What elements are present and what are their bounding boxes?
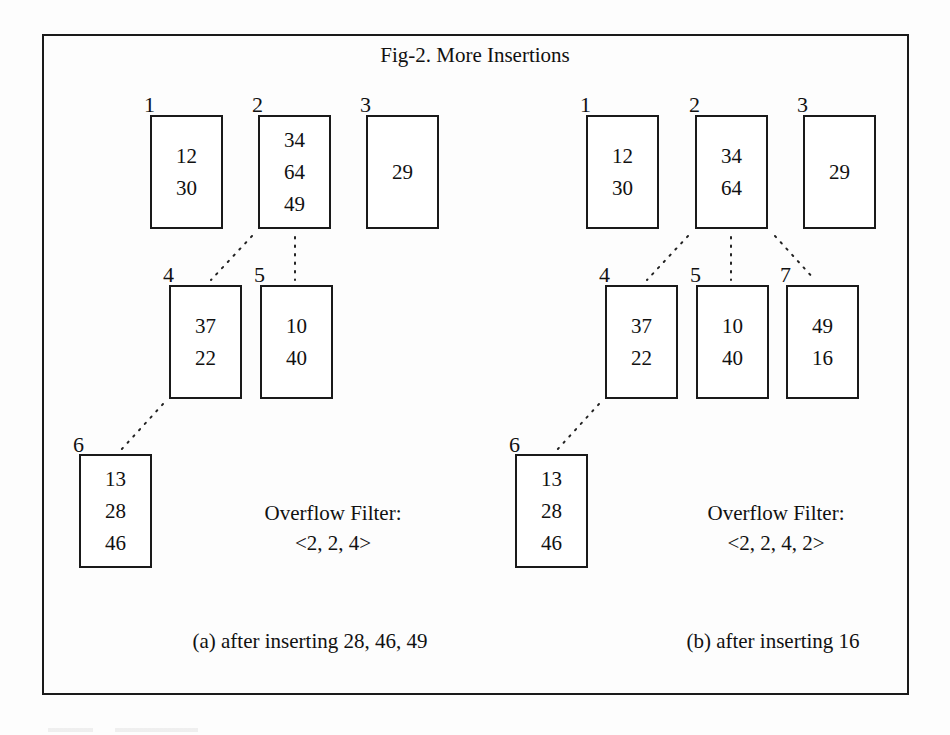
figure-title: Fig-2. More Insertions xyxy=(0,43,950,68)
page-number: 2 xyxy=(689,94,700,116)
page-value: 16 xyxy=(812,342,833,374)
overflow-filter-value: <2, 2, 4, 2> xyxy=(656,528,896,558)
page-box: 12 30 xyxy=(150,115,223,229)
page-value: 34 xyxy=(284,124,305,156)
page-value: 64 xyxy=(721,172,742,204)
page-number: 2 xyxy=(252,94,263,116)
page-number: 1 xyxy=(144,94,155,116)
page-number: 7 xyxy=(780,264,791,286)
page-value: 37 xyxy=(195,310,216,342)
page-number: 6 xyxy=(509,434,520,456)
page-box: 10 40 xyxy=(696,285,769,399)
page-box: 10 40 xyxy=(260,285,333,399)
page-number: 5 xyxy=(254,264,265,286)
page-box: 37 22 xyxy=(169,285,242,399)
page-value: 49 xyxy=(812,310,833,342)
page-box: 13 28 46 xyxy=(79,454,152,568)
overflow-filter-label: Overflow Filter: xyxy=(656,498,896,528)
page-value: 22 xyxy=(631,342,652,374)
page-value: 40 xyxy=(722,342,743,374)
page-value: 46 xyxy=(541,527,562,559)
page-box: 37 22 xyxy=(605,285,678,399)
page-value: 29 xyxy=(829,156,850,188)
page-value: 10 xyxy=(722,310,743,342)
page-number: 1 xyxy=(580,94,591,116)
page-box: 29 xyxy=(803,115,876,229)
overflow-filter-value: <2, 2, 4> xyxy=(213,528,453,558)
page-value: 40 xyxy=(286,342,307,374)
page-value: 64 xyxy=(284,156,305,188)
page-box: 12 30 xyxy=(586,115,659,229)
page-value: 30 xyxy=(176,172,197,204)
page-value: 29 xyxy=(392,156,413,188)
overflow-filter: Overflow Filter: <2, 2, 4> xyxy=(213,498,453,558)
page-number: 3 xyxy=(797,94,808,116)
page-value: 28 xyxy=(105,495,126,527)
page-value: 13 xyxy=(105,463,126,495)
page-value: 13 xyxy=(541,463,562,495)
page-value: 46 xyxy=(105,527,126,559)
panel-caption: (a) after inserting 28, 46, 49 xyxy=(130,629,490,654)
page-number: 3 xyxy=(360,94,371,116)
overflow-filter-label: Overflow Filter: xyxy=(213,498,453,528)
page-value: 28 xyxy=(541,495,562,527)
page-value: 10 xyxy=(286,310,307,342)
cropped-text-fragment xyxy=(48,728,198,732)
overflow-filter: Overflow Filter: <2, 2, 4, 2> xyxy=(656,498,896,558)
page-number: 4 xyxy=(163,264,174,286)
panel-caption: (b) after inserting 16 xyxy=(593,629,950,654)
page-value: 22 xyxy=(195,342,216,374)
page-number: 4 xyxy=(599,264,610,286)
page-value: 30 xyxy=(612,172,633,204)
page-value: 49 xyxy=(284,188,305,220)
page-box: 34 64 xyxy=(695,115,768,229)
page-number: 5 xyxy=(690,264,701,286)
page-number: 6 xyxy=(73,434,84,456)
page-value: 34 xyxy=(721,140,742,172)
page-value: 12 xyxy=(176,140,197,172)
page-value: 37 xyxy=(631,310,652,342)
page-box: 49 16 xyxy=(786,285,859,399)
page-value: 12 xyxy=(612,140,633,172)
page-box: 13 28 46 xyxy=(515,454,588,568)
page-box: 29 xyxy=(366,115,439,229)
page-box: 34 64 49 xyxy=(258,115,331,229)
